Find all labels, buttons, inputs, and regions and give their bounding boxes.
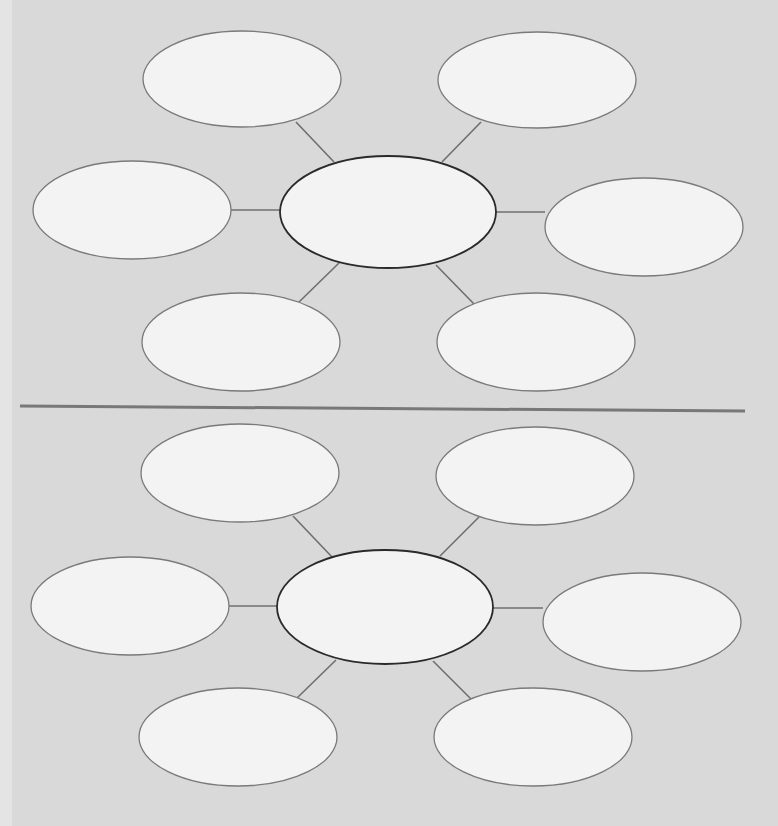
connector-line-top-right	[440, 517, 479, 556]
outer-bubble-bottom-right[interactable]	[437, 293, 635, 391]
connector-line-bottom-right	[433, 661, 471, 699]
bubble-shape[interactable]	[438, 32, 636, 128]
bubble-shape[interactable]	[33, 161, 231, 259]
section-divider	[20, 406, 745, 411]
center-bubble[interactable]	[280, 156, 496, 268]
bubble-map-canvas	[0, 0, 778, 826]
bubble-shape[interactable]	[139, 688, 337, 786]
connector-line-top-left	[296, 122, 334, 162]
connector-line-bottom-right	[436, 265, 474, 304]
outer-bubble-bottom-left[interactable]	[142, 293, 340, 391]
bubble-shape[interactable]	[31, 557, 229, 655]
bottom-web	[31, 424, 741, 786]
outer-bubble-left[interactable]	[31, 557, 229, 655]
outer-bubble-bottom-right[interactable]	[434, 688, 632, 786]
outer-bubble-top-right[interactable]	[436, 427, 634, 525]
bubble-shape[interactable]	[434, 688, 632, 786]
connector-line-top-left	[293, 516, 332, 557]
outer-bubble-left[interactable]	[33, 161, 231, 259]
outer-bubble-top-left[interactable]	[141, 424, 339, 522]
bubble-shape[interactable]	[141, 424, 339, 522]
outer-bubble-bottom-left[interactable]	[139, 688, 337, 786]
bubble-shape[interactable]	[543, 573, 741, 671]
connector-line-bottom-left	[297, 660, 336, 698]
outer-bubble-right[interactable]	[543, 573, 741, 671]
center-bubble-shape[interactable]	[277, 550, 493, 664]
bubble-shape[interactable]	[545, 178, 743, 276]
outer-bubble-right[interactable]	[545, 178, 743, 276]
connector-line-top-right	[442, 122, 481, 162]
outer-bubble-top-left[interactable]	[143, 31, 341, 127]
bubble-shape[interactable]	[436, 427, 634, 525]
center-bubble-shape[interactable]	[280, 156, 496, 268]
outer-bubble-top-right[interactable]	[438, 32, 636, 128]
bubble-shape[interactable]	[437, 293, 635, 391]
connector-line-bottom-left	[299, 263, 339, 302]
bubble-shape[interactable]	[143, 31, 341, 127]
center-bubble[interactable]	[277, 550, 493, 664]
bubble-shape[interactable]	[142, 293, 340, 391]
top-web	[33, 31, 743, 391]
